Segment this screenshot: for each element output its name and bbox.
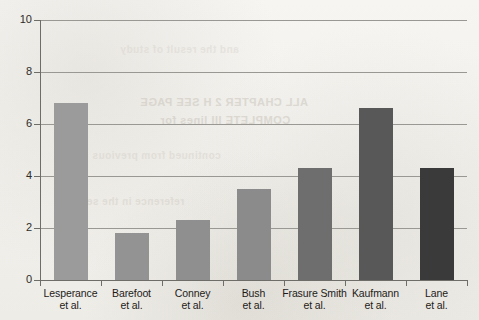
x-tick-4 <box>284 280 285 286</box>
y-tick-2 <box>34 228 40 229</box>
x-tick-3 <box>223 280 224 286</box>
x-tick-label: Lesperanceet al. <box>36 288 105 311</box>
x-axis-line <box>40 280 467 281</box>
x-tick-label-name: Lane <box>425 287 448 299</box>
x-tick-label-name: Barefoot <box>112 287 151 299</box>
x-axis-labels: Lesperanceet al.Barefootet al.Conneyet a… <box>40 288 467 320</box>
x-tick-label-name: Conney <box>175 287 211 299</box>
x-tick-label-etal: et al. <box>158 300 227 312</box>
x-tick-7 <box>467 280 468 286</box>
x-tick-2 <box>162 280 163 286</box>
bar <box>115 233 149 280</box>
bar <box>420 168 454 280</box>
y-tick-6 <box>34 124 40 125</box>
x-tick-label-etal: et al. <box>402 300 471 312</box>
y-tick-label-0: 0 <box>6 274 32 285</box>
y-tick-4 <box>34 176 40 177</box>
x-tick-label: Laneet al. <box>402 288 471 311</box>
x-tick-label: Bushet al. <box>219 288 288 311</box>
y-tick-label-8: 8 <box>6 66 32 77</box>
x-tick-label-name: Kaufmann <box>352 287 399 299</box>
y-axis-labels: 0246810 <box>0 0 32 300</box>
bar <box>176 220 210 280</box>
x-tick-label-name: Frasure Smith <box>282 287 347 299</box>
bar <box>359 108 393 280</box>
bar-chart: ALL CHAPTER 2 H SEE PAGE COMPLETE III li… <box>0 0 479 320</box>
y-tick-label-4: 4 <box>6 170 32 181</box>
y-tick-label-6: 6 <box>6 118 32 129</box>
y-tick-label-10: 10 <box>6 14 32 25</box>
x-tick-label-etal: et al. <box>36 300 105 312</box>
x-tick-label-name: Lesperance <box>44 287 98 299</box>
x-tick-label-etal: et al. <box>97 300 166 312</box>
x-tick-label-etal: et al. <box>280 300 349 312</box>
bar <box>54 103 88 280</box>
x-tick-label-etal: et al. <box>219 300 288 312</box>
x-tick-label-etal: et al. <box>341 300 410 312</box>
bar <box>237 189 271 280</box>
bar-series <box>40 20 467 280</box>
x-tick-5 <box>345 280 346 286</box>
x-tick-1 <box>101 280 102 286</box>
x-tick-label: Conneyet al. <box>158 288 227 311</box>
y-tick-label-2: 2 <box>6 222 32 233</box>
x-tick-label-name: Bush <box>242 287 266 299</box>
x-tick-label: Kaufmannet al. <box>341 288 410 311</box>
x-tick-0 <box>40 280 41 286</box>
x-tick-6 <box>406 280 407 286</box>
x-tick-label: Barefootet al. <box>97 288 166 311</box>
y-tick-10 <box>34 20 40 21</box>
y-tick-8 <box>34 72 40 73</box>
x-tick-label: Frasure Smithet al. <box>280 288 349 311</box>
bar <box>298 168 332 280</box>
